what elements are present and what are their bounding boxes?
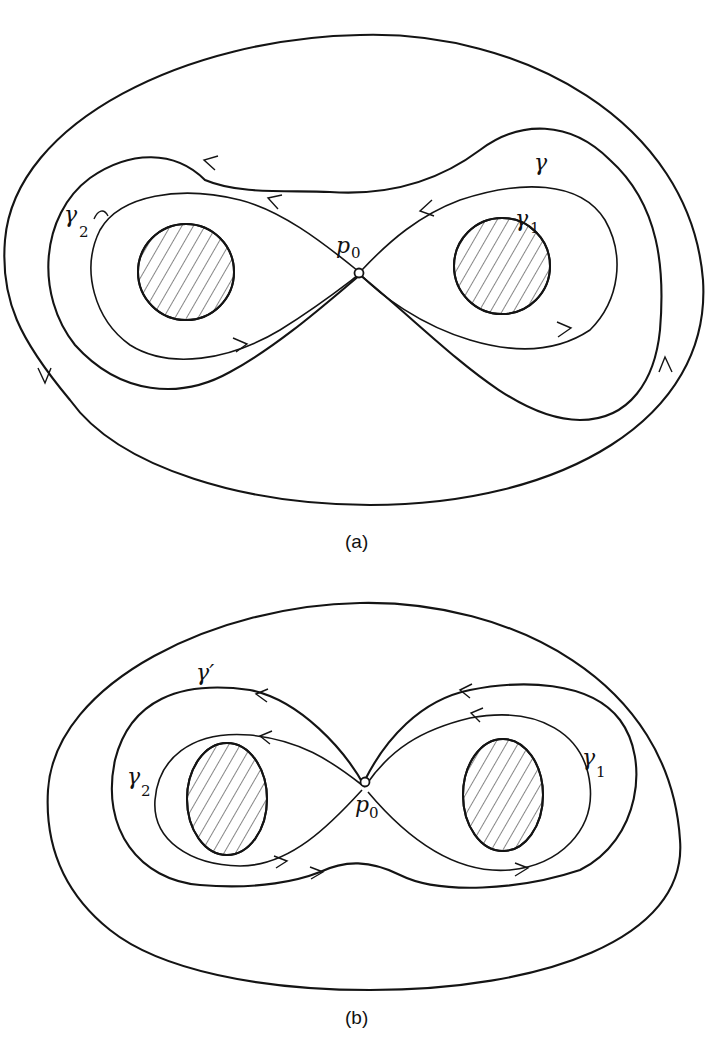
label-gamma2-b: γ — [127, 764, 141, 789]
arrow-icon — [38, 368, 51, 383]
arrow-icon — [274, 856, 287, 868]
label-p0-sub-a: 0 — [351, 244, 361, 262]
label-gamma1-a: γ — [515, 206, 529, 231]
arrow-icon — [204, 156, 218, 170]
label-gamma1-sub-b: 1 — [596, 763, 606, 781]
label-gamma-a: γ — [534, 150, 548, 175]
figure-canvas: γ γ 1 γ 2 p 0 (a) — [0, 0, 722, 1040]
label-p0-b: p — [355, 792, 369, 817]
label-gamma1-sub-a: 1 — [530, 219, 540, 237]
outer-boundary-a — [4, 35, 703, 505]
label-gamma1-b: γ — [582, 745, 596, 770]
label-gamma2-a: γ — [64, 202, 78, 227]
base-point-p0-b — [361, 778, 370, 787]
arrow-icon — [557, 322, 571, 337]
arrow-icon — [268, 195, 282, 209]
caption-b: (b) — [345, 1007, 368, 1028]
label-gamma2-pointer — [94, 211, 108, 219]
label-p0-a: p — [336, 233, 350, 258]
arrow-icon — [659, 357, 672, 372]
label-p0-sub-b: 0 — [369, 804, 379, 822]
arrow-icon — [471, 708, 483, 722]
base-point-p0-a — [355, 269, 364, 278]
label-gamma-prime-b: γ′ — [196, 660, 214, 685]
figure-a: γ γ 1 γ 2 p 0 (a) — [4, 35, 703, 552]
caption-a: (a) — [345, 531, 368, 552]
label-gamma2-sub-a: 2 — [79, 223, 89, 241]
label-gamma2-sub-b: 2 — [141, 782, 151, 800]
figure-b: γ′ γ 1 γ 2 p 0 (b) — [48, 603, 681, 1028]
